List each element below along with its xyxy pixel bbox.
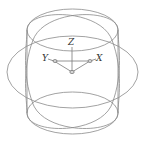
z-axis-label: Z: [67, 37, 75, 47]
y-axis-label: Y: [42, 53, 49, 63]
y-axis-marker-icon: [53, 60, 57, 63]
orbit-wireframe-diagram: Z Y X: [0, 0, 144, 151]
x-axis-marker-icon: [88, 60, 92, 63]
ucs-icon: Z Y X: [42, 37, 103, 74]
origin-marker-icon: [70, 70, 74, 73]
x-axis-label: X: [95, 53, 103, 63]
